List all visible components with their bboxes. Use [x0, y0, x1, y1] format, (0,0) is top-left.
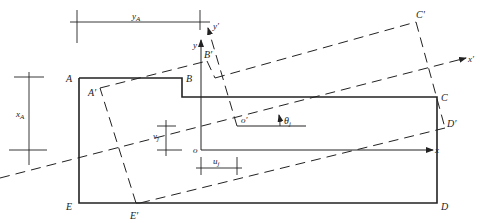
label-c: C	[441, 92, 448, 103]
label-y-prime-axis: y′	[212, 21, 220, 31]
label-e: E	[65, 201, 72, 212]
label-y-axis: y	[192, 40, 197, 50]
label-b: B	[186, 73, 192, 84]
label-c-prime: C′	[416, 9, 426, 20]
rotated-shape	[100, 22, 445, 203]
label-a-prime: A′	[87, 87, 97, 98]
original-shape-outline	[79, 78, 437, 203]
label-a: A	[65, 73, 73, 84]
label-vj: vj	[153, 131, 159, 143]
label-e-prime: E′	[129, 210, 139, 221]
rotation-diagram: A B C D E A′ B′ C′ D′ E′ o o′ x y x′ y′ …	[0, 0, 480, 223]
vj-dimension	[157, 120, 182, 156]
theta-arc	[279, 115, 280, 126]
label-ya: yA	[131, 11, 141, 23]
label-origin-prime: o′	[241, 115, 249, 125]
label-origin: o	[193, 145, 198, 155]
xa-dimension	[9, 72, 47, 165]
y-prime-axis	[208, 28, 237, 126]
label-x-prime-axis: x′	[467, 54, 475, 64]
label-uj: uj	[213, 156, 220, 168]
label-b-prime: B′	[204, 49, 213, 60]
label-xa: xA	[15, 109, 25, 121]
label-d-prime: D′	[446, 118, 457, 129]
label-x-axis: x	[434, 145, 439, 155]
label-d: D	[440, 201, 449, 212]
